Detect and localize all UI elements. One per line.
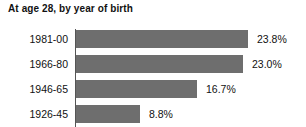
bar: [76, 55, 243, 73]
bar: [76, 105, 140, 123]
chart-title: At age 28, by year of birth: [8, 3, 133, 14]
bar: [76, 80, 197, 98]
category-label: 1926-45: [29, 105, 68, 123]
category-label: 1966-80: [29, 55, 68, 73]
value-label: 16.7%: [206, 80, 236, 98]
bar-row: 1981-00 23.8%: [0, 30, 306, 48]
bar-row: 1966-80 23.0%: [0, 55, 306, 73]
bar-row: 1946-65 16.7%: [0, 80, 306, 98]
value-label: 23.8%: [257, 30, 287, 48]
bar: [76, 30, 248, 48]
value-label: 8.8%: [149, 105, 173, 123]
plot-area: 1981-00 23.8% 1966-80 23.0% 1946-65 16.7…: [0, 29, 306, 127]
bar-chart-figure: At age 28, by year of birth 1981-00 23.8…: [0, 0, 306, 127]
category-label: 1981-00: [29, 30, 68, 48]
value-label: 23.0%: [252, 55, 282, 73]
bar-row: 1926-45 8.8%: [0, 105, 306, 123]
category-label: 1946-65: [29, 80, 68, 98]
